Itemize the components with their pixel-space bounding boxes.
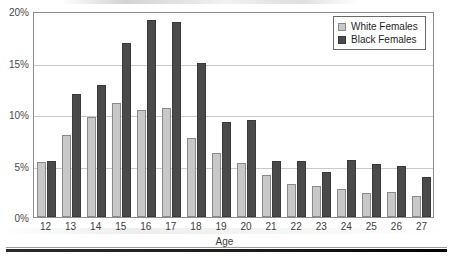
bar-group bbox=[212, 13, 232, 217]
x-axis-tick-label: 18 bbox=[183, 221, 209, 232]
bar-black-females-age-24 bbox=[347, 160, 356, 217]
bar-white-females-age-22 bbox=[287, 184, 296, 217]
bar-white-females-age-13 bbox=[62, 135, 71, 217]
chart-figure: 0%5%10%15%20% 12131415161718192021222324… bbox=[0, 0, 449, 259]
bar-white-females-age-12 bbox=[37, 162, 46, 217]
x-axis-tick-label: 23 bbox=[308, 221, 334, 232]
bar-white-females-age-14 bbox=[87, 117, 96, 217]
y-axis-tick-label: 10% bbox=[0, 110, 29, 121]
bar-white-females-age-24 bbox=[337, 189, 346, 217]
bar-group bbox=[187, 13, 207, 217]
x-axis-tick-label: 25 bbox=[358, 221, 384, 232]
legend-label-white-females: White Females bbox=[351, 21, 418, 32]
bar-black-females-age-16 bbox=[147, 20, 156, 217]
x-axis-tick-label: 27 bbox=[408, 221, 434, 232]
bar-group bbox=[112, 13, 132, 217]
x-axis-tick-label: 13 bbox=[58, 221, 84, 232]
bar-group bbox=[262, 13, 282, 217]
bar-group bbox=[87, 13, 107, 217]
x-axis-tick-label: 17 bbox=[158, 221, 184, 232]
bar-black-females-age-26 bbox=[397, 166, 406, 218]
bar-group bbox=[162, 13, 182, 217]
page-edge-highlight bbox=[6, 247, 447, 248]
legend-item-white-females: White Females bbox=[338, 20, 418, 33]
bar-black-females-age-20 bbox=[247, 120, 256, 217]
bar-group bbox=[62, 13, 82, 217]
bar-black-females-age-19 bbox=[222, 122, 231, 217]
x-axis-label: Age bbox=[0, 236, 449, 247]
bar-white-females-age-18 bbox=[187, 138, 196, 217]
chart-legend: White Females Black Females bbox=[333, 16, 426, 50]
bar-group bbox=[137, 13, 157, 217]
bar-black-females-age-12 bbox=[47, 161, 56, 217]
black-females-swatch-icon bbox=[338, 36, 346, 44]
bar-black-females-age-13 bbox=[72, 94, 81, 217]
x-axis-tick-label: 22 bbox=[283, 221, 309, 232]
bar-black-females-age-22 bbox=[297, 161, 306, 217]
x-axis-tick-label: 24 bbox=[333, 221, 359, 232]
bar-white-females-age-21 bbox=[262, 175, 271, 217]
bar-white-females-age-17 bbox=[162, 108, 171, 217]
bar-black-females-age-17 bbox=[172, 22, 181, 217]
bar-black-females-age-25 bbox=[372, 164, 381, 217]
page-edge-rule bbox=[6, 249, 447, 252]
bar-white-females-age-16 bbox=[137, 110, 146, 217]
bar-white-females-age-23 bbox=[312, 186, 321, 217]
scan-artifact-top bbox=[60, 0, 360, 4]
x-axis-tick-label: 14 bbox=[83, 221, 109, 232]
x-axis-tick-label: 16 bbox=[133, 221, 159, 232]
bar-black-females-age-18 bbox=[197, 63, 206, 218]
bar-black-females-age-27 bbox=[422, 177, 431, 217]
x-axis-tick-label: 19 bbox=[208, 221, 234, 232]
bar-black-females-age-21 bbox=[272, 161, 281, 217]
bar-group bbox=[312, 13, 332, 217]
legend-item-black-females: Black Females bbox=[338, 33, 418, 46]
bar-black-females-age-15 bbox=[122, 43, 131, 217]
x-axis-tick-label: 26 bbox=[383, 221, 409, 232]
bar-white-females-age-27 bbox=[412, 196, 421, 217]
bar-white-females-age-15 bbox=[112, 103, 121, 217]
legend-label-black-females: Black Females bbox=[351, 34, 417, 45]
bar-group bbox=[37, 13, 57, 217]
bar-white-females-age-20 bbox=[237, 163, 246, 217]
y-axis-tick-label: 0% bbox=[0, 213, 29, 224]
y-axis-tick-label: 15% bbox=[0, 58, 29, 69]
bar-white-females-age-19 bbox=[212, 153, 221, 217]
bar-black-females-age-14 bbox=[97, 85, 106, 217]
x-axis-tick-label: 20 bbox=[233, 221, 259, 232]
bar-black-females-age-23 bbox=[322, 172, 331, 217]
y-axis-tick-label: 20% bbox=[0, 7, 29, 18]
white-females-swatch-icon bbox=[338, 23, 346, 31]
y-axis-tick-label: 5% bbox=[0, 161, 29, 172]
bar-white-females-age-26 bbox=[387, 192, 396, 217]
bar-white-females-age-25 bbox=[362, 193, 371, 217]
x-axis-tick-label: 21 bbox=[258, 221, 284, 232]
bar-group bbox=[237, 13, 257, 217]
x-axis-tick-label: 12 bbox=[33, 221, 59, 232]
bar-group bbox=[287, 13, 307, 217]
x-axis-tick-label: 15 bbox=[108, 221, 134, 232]
